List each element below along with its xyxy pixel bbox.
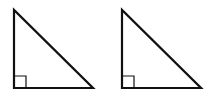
diagram-canvas: [0, 0, 209, 110]
right-angle-marker-left: [14, 76, 26, 88]
triangle-left: [14, 10, 93, 88]
triangle-right: [122, 10, 201, 88]
right-angle-marker-right: [122, 76, 134, 88]
